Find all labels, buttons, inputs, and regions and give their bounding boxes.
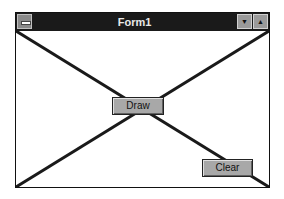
maximize-button[interactable]: ▲ — [253, 14, 268, 29]
system-menu-icon[interactable] — [17, 14, 32, 29]
minimize-button[interactable]: ▼ — [237, 14, 252, 29]
clear-button[interactable]: Clear — [202, 159, 253, 177]
system-menu-bar — [21, 21, 31, 25]
client-area[interactable]: Draw Clear — [16, 31, 269, 187]
title-bar[interactable]: Form1 ▼ ▲ — [16, 13, 269, 31]
form1-window: Form1 ▼ ▲ Draw Clear — [15, 12, 270, 188]
window-title: Form1 — [36, 13, 233, 31]
draw-button[interactable]: Draw — [112, 97, 164, 115]
